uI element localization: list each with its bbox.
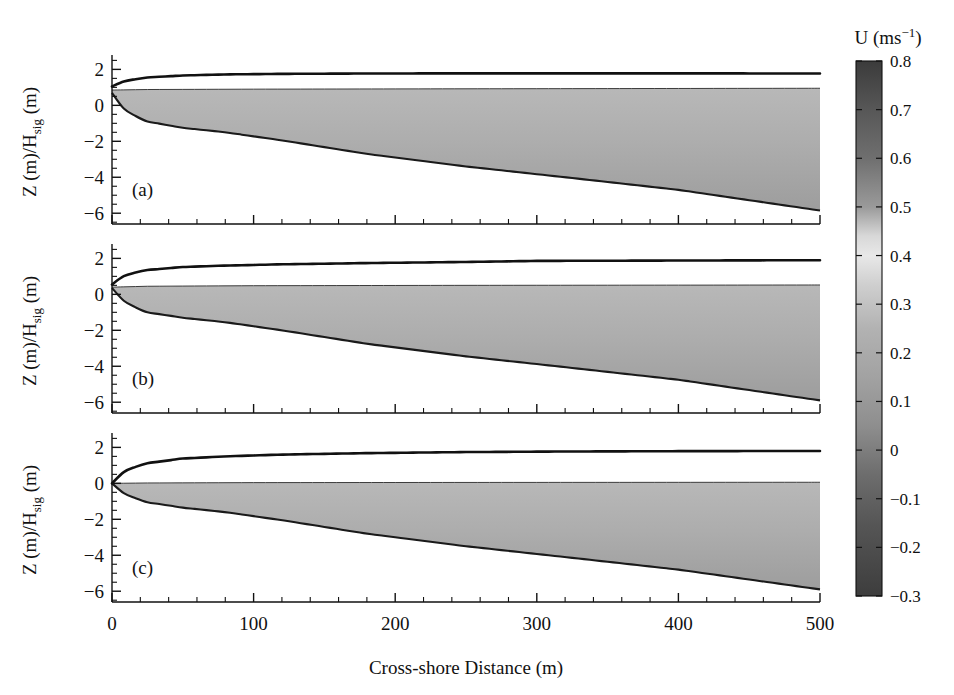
colorbar-title-sup: −1	[901, 25, 915, 40]
x-tick-label: 100	[239, 613, 268, 634]
y-tick-label: −2	[84, 509, 104, 530]
colorbar-title-main: U (ms	[854, 27, 901, 49]
colorbar-gradient	[856, 61, 882, 596]
y-tick-label: 0	[95, 284, 105, 305]
y-title-main-b: Z (m)/H	[19, 323, 41, 386]
y-title-sub-a: sig	[29, 119, 44, 135]
y-tick-label: 2	[95, 59, 105, 80]
figure-root: (a) (b) (c) 20−2−4−620−2−4−620−2−4−60100…	[0, 0, 954, 695]
y-title-main-c: Z (m)/H	[19, 512, 41, 575]
y-tick-label: −4	[84, 545, 105, 566]
y-tick-label: 2	[95, 248, 105, 269]
y-tick-label: −6	[84, 392, 104, 413]
y-tick-label: −4	[84, 356, 105, 377]
colorbar-title-tail: )	[915, 27, 921, 49]
x-tick-label: 300	[523, 613, 552, 634]
y-tick-label: −6	[84, 203, 104, 224]
y-tick-label: 0	[95, 473, 105, 494]
colorbar-tick-label: 0.1	[890, 392, 911, 411]
y-tick-label: −6	[84, 581, 104, 602]
panel-a-label: (a)	[132, 179, 153, 201]
panel-b: (b)	[132, 368, 154, 390]
colorbar-tick-label: 0.2	[890, 344, 911, 363]
y-tick-label: 0	[95, 95, 105, 116]
colorbar-tick-label: 0	[890, 441, 899, 460]
y-title-sub-c: sig	[29, 497, 44, 513]
colorbar-tick-label: 0.8	[890, 52, 911, 71]
colorbar-tick-label: 0.7	[890, 101, 912, 120]
panel-c: (c)	[132, 557, 153, 579]
colorbar-tick-label: 0.4	[890, 247, 912, 266]
y-title-tail-a: (m)	[19, 87, 41, 119]
y-title-tail-c: (m)	[19, 465, 41, 497]
colorbar-tick-label: −0.3	[890, 587, 921, 606]
x-tick-label: 500	[806, 613, 835, 634]
figure-svg: (a) (b) (c) 20−2−4−620−2−4−620−2−4−60100…	[0, 0, 954, 695]
colorbar-tick-label: −0.2	[890, 538, 921, 557]
y-title-tail-b: (m)	[19, 276, 41, 308]
x-tick-label: 0	[107, 613, 117, 634]
y-title-sub-b: sig	[29, 308, 44, 324]
colorbar-tick-label: −0.1	[890, 490, 921, 509]
y-title-main-a: Z (m)/H	[19, 134, 41, 197]
y-tick-label: −2	[84, 320, 104, 341]
panel-c-label: (c)	[132, 557, 153, 579]
panel-a: (a)	[132, 179, 153, 201]
x-axis-title: Cross-shore Distance (m)	[369, 657, 563, 679]
colorbar-tick-label: 0.6	[890, 149, 911, 168]
y-tick-label: −4	[84, 167, 105, 188]
colorbar-tick-label: 0.3	[890, 295, 911, 314]
x-tick-label: 400	[664, 613, 693, 634]
y-tick-label: −2	[84, 131, 104, 152]
x-tick-label: 200	[381, 613, 410, 634]
y-tick-label: 2	[95, 437, 105, 458]
colorbar-tick-label: 0.5	[890, 198, 911, 217]
panel-b-label: (b)	[132, 368, 154, 390]
